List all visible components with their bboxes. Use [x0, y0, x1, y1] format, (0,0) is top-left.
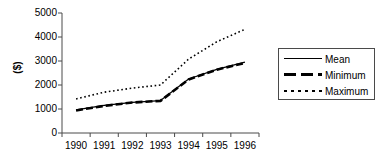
legend-label-mean: Mean: [325, 54, 350, 65]
x-tick-label: 1996: [228, 140, 262, 151]
legend-key-minimum-icon: [283, 68, 323, 82]
chart-legend: Mean Minimum Maximum: [278, 48, 375, 100]
legend-item-minimum: Minimum: [279, 67, 376, 83]
legend-item-mean: Mean: [279, 51, 376, 67]
legend-key-maximum-icon: [283, 84, 323, 98]
legend-label-minimum: Minimum: [325, 70, 366, 81]
legend-label-maximum: Maximum: [325, 86, 368, 97]
chart-figure: ($) 010002000300040005000 19901991199219…: [0, 0, 381, 163]
legend-key-mean-icon: [283, 52, 323, 66]
legend-item-maximum: Maximum: [279, 83, 376, 99]
